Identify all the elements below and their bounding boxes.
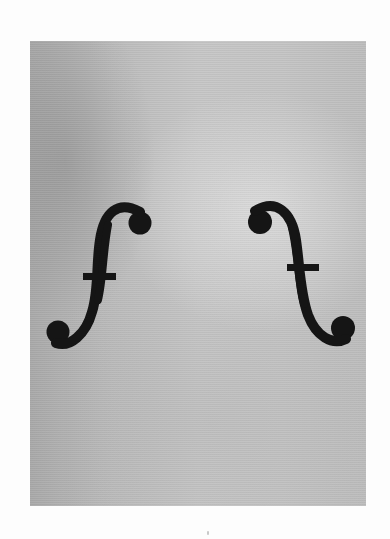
right-f-hole (248, 206, 355, 341)
dust-speck (207, 531, 209, 535)
photo-canvas (0, 0, 390, 539)
right-f-hole-crossbar (287, 264, 319, 271)
f-holes-illustration (0, 0, 390, 539)
left-f-hole (47, 207, 152, 344)
left-f-hole-crossbar (83, 273, 116, 280)
